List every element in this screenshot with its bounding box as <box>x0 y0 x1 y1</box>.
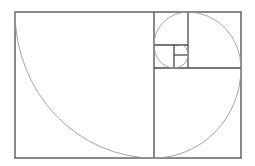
golden-spiral-diagram <box>0 0 255 166</box>
frame-lines <box>15 12 241 158</box>
golden-spiral-curve <box>15 12 241 158</box>
outer-rectangle <box>15 12 241 158</box>
